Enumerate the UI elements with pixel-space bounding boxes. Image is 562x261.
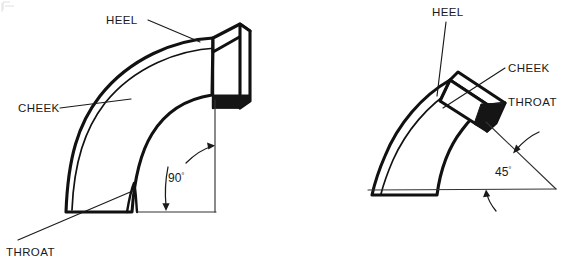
throat-label-45: THROAT xyxy=(508,96,557,108)
elbow-diagrams-svg: 90° HEEL CHEEK THROAT xyxy=(0,0,562,261)
scan-artifact xyxy=(2,2,14,12)
heel-callout-90: HEEL xyxy=(106,14,200,42)
forty-five-degree-elbow-drawing: 45° HEEL CHEEK THROAT xyxy=(368,6,557,211)
ninety-degree-elbow-drawing: 90° HEEL CHEEK THROAT xyxy=(6,14,250,258)
heel-leader-90 xyxy=(148,20,200,42)
cheek-label-90: CHEEK xyxy=(18,102,60,114)
elbow-body-90 xyxy=(66,38,213,212)
heel-label-45: HEEL xyxy=(432,6,464,18)
diagram-canvas: 90° HEEL CHEEK THROAT xyxy=(0,0,562,261)
throat-label-90: THROAT xyxy=(6,246,55,258)
angle-label-45: 45° xyxy=(495,165,512,179)
cheek-label-45: CHEEK xyxy=(508,62,550,74)
angle-label-90: 90° xyxy=(168,171,185,185)
heel-label-90: HEEL xyxy=(106,14,138,26)
